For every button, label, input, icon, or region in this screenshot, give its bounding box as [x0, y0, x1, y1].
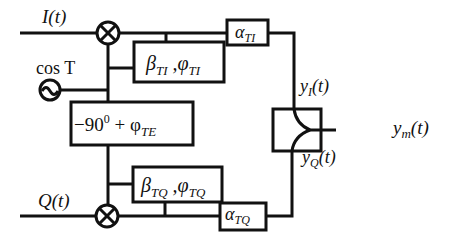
- i-mixer-icon: [97, 22, 119, 44]
- yi-label: yI(t): [298, 76, 329, 99]
- combiner-icon: [273, 109, 336, 151]
- q-mixer-icon: [96, 205, 118, 227]
- lo-label: cos T: [36, 58, 75, 78]
- yq-label: yQ(t): [300, 147, 336, 170]
- oscillator-icon: [40, 80, 60, 100]
- yq-line: [266, 150, 292, 216]
- iq-modulator-diagram: I(t) Q(t) cos T βTI ,φTI αTI −900 + φTE …: [0, 0, 456, 247]
- q-input-label: Q(t): [38, 190, 70, 212]
- ym-label: ym(t): [391, 117, 429, 141]
- yi-line: [268, 33, 294, 110]
- i-input-label: I(t): [41, 6, 66, 28]
